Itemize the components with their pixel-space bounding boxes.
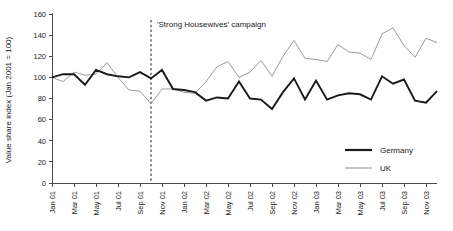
x-tick-label: Nov 03 <box>422 191 431 215</box>
x-tick-label: Jan 03 <box>312 191 321 214</box>
legend-label-germany: Germany <box>380 146 413 155</box>
x-tick-label: Jan 01 <box>48 191 57 214</box>
x-tick-label: Nov 01 <box>158 191 167 215</box>
x-tick-label: Mar 03 <box>334 191 343 214</box>
series-line-uk <box>52 28 437 104</box>
chart-container: 020406080100120140160 Jan 01Mar 01May 01… <box>0 0 453 231</box>
x-tick-label: Nov 02 <box>290 191 299 215</box>
x-tick-label: May 01 <box>92 191 101 216</box>
y-tick-label: 100 <box>33 73 46 82</box>
legend-label-uk: UK <box>380 164 392 173</box>
y-tick-label: 60 <box>38 115 46 124</box>
x-tick-label: Sep 03 <box>400 191 409 215</box>
campaign-event-marker: 'Strong Housewives' campaign <box>151 20 266 183</box>
x-tick-label: Sep 02 <box>268 191 277 215</box>
y-tick-label: 140 <box>33 31 46 40</box>
x-tick-label: Jul 01 <box>114 191 123 211</box>
campaign-annotation-label: 'Strong Housewives' campaign <box>157 20 266 29</box>
series-line-germany <box>52 70 437 109</box>
line-chart: 020406080100120140160 Jan 01Mar 01May 01… <box>0 0 453 231</box>
y-tick-label: 40 <box>38 137 46 146</box>
x-tick-label: Mar 02 <box>202 191 211 214</box>
y-axis-title: Value share index (Jan 2001 = 100) <box>4 36 13 163</box>
x-tick-label: May 02 <box>224 191 233 216</box>
y-tick-label: 20 <box>38 158 46 167</box>
x-tick-label: Jul 03 <box>378 191 387 211</box>
y-tick-label: 160 <box>33 10 46 19</box>
x-tick-label: Sep 01 <box>136 191 145 215</box>
y-axis: 020406080100120140160 <box>33 10 52 188</box>
y-tick-label: 80 <box>38 94 46 103</box>
x-tick-label: May 03 <box>356 191 365 216</box>
x-tick-label: Jan 02 <box>180 191 189 214</box>
x-axis: Jan 01Mar 01May 01Jul 01Sep 01Nov 01Jan … <box>48 183 437 216</box>
y-tick-label: 0 <box>42 179 46 188</box>
x-tick-label: Mar 01 <box>70 191 79 214</box>
x-tick-label: Jul 02 <box>246 191 255 211</box>
y-tick-label: 120 <box>33 52 46 61</box>
legend: Germany UK <box>345 146 413 173</box>
